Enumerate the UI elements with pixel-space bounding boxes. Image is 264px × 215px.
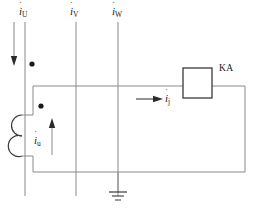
earth-ground-icon [109,172,127,200]
current-transformer-coil-icon [8,115,22,157]
polarity-dot-primary-icon [29,61,34,66]
label-phase-v: ˙iV [70,6,78,19]
circuit-diagram-canvas: ˙iU ˙iV ˙iW ˙iu ˙ij KA [0,0,264,215]
phasor-dot-u-icon: ˙ [19,1,22,10]
label-relay-ka: KA [219,64,233,74]
relay-current-subscript: j [168,97,170,106]
relay-current-right-arrow-icon [136,96,163,102]
secondary-current-subscript: u [37,139,41,148]
phasor-dot-secondary-icon: ˙ [34,130,37,139]
label-relay-current: ˙ij [165,93,170,106]
phasor-dot-v-icon: ˙ [70,1,73,10]
phasor-dot-relay-icon: ˙ [165,88,168,97]
label-phase-u: ˙iU [19,6,27,19]
phase-w-subscript: W [115,10,122,19]
label-phase-w: ˙iW [112,6,122,19]
label-secondary-current: ˙iu [34,135,41,148]
relay-box-ka[interactable] [183,68,212,98]
phase-u-down-arrow-icon [11,22,17,66]
phase-v-subscript: V [73,10,78,19]
circuit-schematic-svg [0,0,264,215]
phasor-dot-w-icon: ˙ [112,1,115,10]
phase-u-subscript: U [22,10,27,19]
polarity-dot-secondary-icon [38,103,43,108]
secondary-up-arrow-icon [49,118,55,155]
